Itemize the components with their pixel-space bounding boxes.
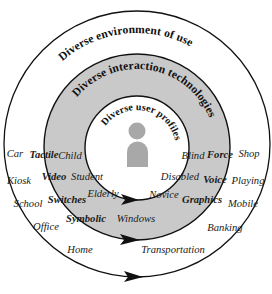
interaction-technology-label: Tactile [29, 149, 58, 160]
environment-label: School [14, 198, 43, 209]
user-profile-label: Child [58, 150, 82, 161]
user-profile-label: Elderly [86, 188, 118, 199]
environment-label: Transportation [141, 244, 205, 255]
interaction-technology-label: Voice [203, 174, 227, 185]
diagram-canvas: Diverse environment of use Diverse inter… [0, 0, 272, 294]
environment-label: Home [66, 244, 93, 255]
interaction-technology-label: Symbolic [66, 213, 106, 224]
user-profile-label: Student [71, 171, 104, 182]
environment-label: Car [7, 148, 24, 159]
person-icon [127, 123, 148, 168]
environment-label: Shop [238, 148, 259, 159]
environment-label: Playing [231, 175, 265, 186]
interaction-technology-label: Graphics [182, 194, 222, 205]
user-profile-label: Blind [182, 150, 206, 161]
user-profile-label: Novice [148, 189, 179, 200]
interaction-technology-label: Switches [48, 194, 86, 205]
concentric-rings-diagram: Diverse environment of use Diverse inter… [0, 0, 272, 294]
environment-label: Office [33, 221, 59, 232]
user-profile-label: Disabled [160, 171, 200, 182]
user-profile-label: Windows [117, 213, 155, 224]
environment-label: Mobile [227, 198, 258, 209]
interaction-technology-label: Force [206, 149, 233, 160]
environment-label: Banking [207, 222, 242, 233]
interaction-technology-label: Video [42, 171, 67, 182]
environment-label: Kiosk [6, 175, 31, 186]
